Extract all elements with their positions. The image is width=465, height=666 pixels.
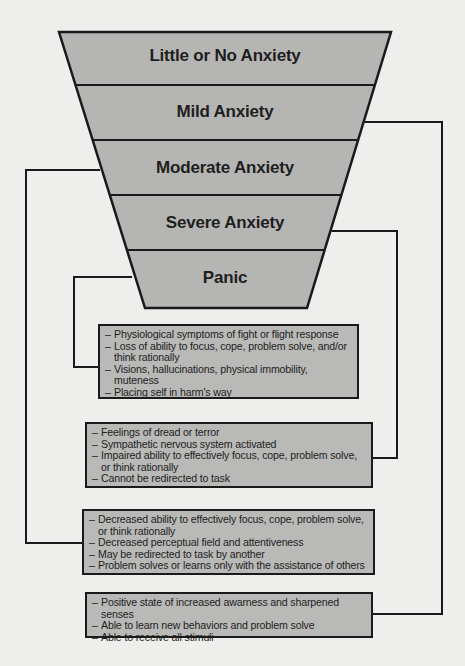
level-label-severe-anxiety: Severe Anxiety <box>59 213 391 233</box>
list-item: Cannot be redirected to task <box>92 473 367 485</box>
list-item: Feelings of dread or terror <box>92 427 367 439</box>
connector-mild <box>365 122 442 614</box>
level-label-moderate-anxiety: Moderate Anxiety <box>59 158 391 178</box>
level-label-little-or-no-anxiety: Little or No Anxiety <box>59 46 391 66</box>
list-item: Impaired ability to effectively focus, c… <box>92 450 367 473</box>
mild-symptom-list: Positive state of increased awarness and… <box>92 597 367 643</box>
list-item: Able to receive all stimuli <box>92 632 367 644</box>
moderate-symptom-list: Decreased ability to effectively focus, … <box>89 514 369 572</box>
list-item: Positive state of increased awarness and… <box>92 597 367 620</box>
mild-description-box: Positive state of increased awarness and… <box>85 592 373 638</box>
moderate-description-box: Decreased ability to effectively focus, … <box>82 509 375 575</box>
list-item: Placing self in harm's way <box>105 387 353 399</box>
panic-symptom-list: Physiological symptoms of fight or fligh… <box>105 329 353 399</box>
list-item: Decreased ability to effectively focus, … <box>89 514 369 537</box>
severe-symptom-list: Feelings of dread or terror Sympathetic … <box>92 427 367 485</box>
panic-description-box: Physiological symptoms of fight or fligh… <box>98 324 359 399</box>
list-item: Problem solves or learns only with the a… <box>89 560 369 572</box>
list-item: Loss of ability to focus, cope, problem … <box>105 341 353 364</box>
severe-description-box: Feelings of dread or terror Sympathetic … <box>85 422 373 488</box>
list-item: Visions, hallucinations, physical immobi… <box>105 364 353 387</box>
list-item: Physiological symptoms of fight or fligh… <box>105 329 353 341</box>
level-label-panic: Panic <box>59 268 391 288</box>
level-label-mild-anxiety: Mild Anxiety <box>59 102 391 122</box>
